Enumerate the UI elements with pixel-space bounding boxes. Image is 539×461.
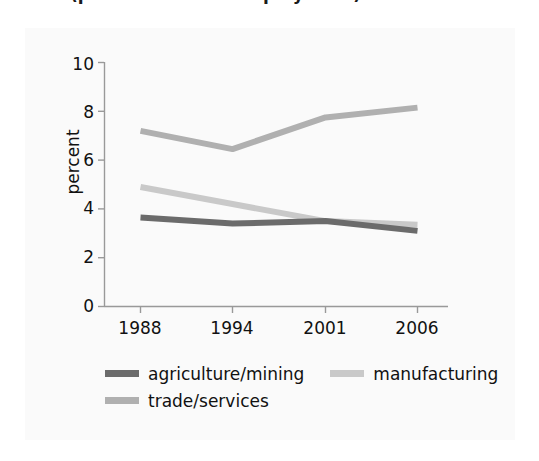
- legend-label-trade-services: trade/services: [148, 391, 269, 411]
- legend-swatch-agriculture-mining: [105, 370, 139, 377]
- line-chart: percent 10 8 6 4 2 0 1988 1994 2001 2006: [0, 0, 539, 461]
- y-axis-ticks: [98, 63, 104, 307]
- chart-legend: agriculture/mining manufacturing trade/s…: [105, 360, 525, 414]
- legend-row-2: trade/services: [105, 387, 525, 414]
- legend-swatch-manufacturing: [330, 370, 364, 377]
- legend-row-1: agriculture/mining manufacturing: [105, 360, 525, 387]
- legend-item-manufacturing[interactable]: manufacturing: [330, 364, 498, 384]
- legend-label-manufacturing: manufacturing: [373, 364, 498, 384]
- legend-swatch-trade-services: [105, 397, 139, 404]
- legend-item-agriculture-mining[interactable]: agriculture/mining: [105, 364, 304, 384]
- series-line-trade-services: [141, 108, 418, 149]
- legend-item-trade-services[interactable]: trade/services: [105, 391, 269, 411]
- legend-label-agriculture-mining: agriculture/mining: [148, 364, 304, 384]
- series-line-agriculture-mining: [141, 217, 418, 230]
